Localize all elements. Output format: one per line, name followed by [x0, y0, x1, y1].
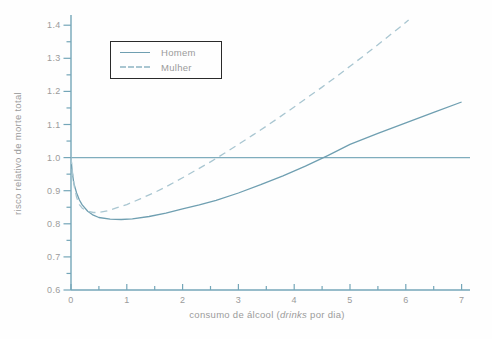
x-tick-label: 6 [403, 295, 408, 305]
chart-canvas: 0.60.70.80.91.01.11.21.31.401234567 [0, 0, 492, 339]
x-tick-label: 3 [236, 295, 241, 305]
y-tick-label: 1.0 [47, 153, 60, 163]
x-tick-label: 0 [68, 295, 73, 305]
x-axis-title-italic: drinks [280, 309, 307, 320]
legend-item-homem: Homem [111, 47, 221, 58]
legend-label-mulher: Mulher [161, 62, 192, 73]
legend-label-homem: Homem [161, 47, 196, 58]
y-tick-label: 1.3 [47, 53, 60, 63]
x-axis-title-prefix: consumo de álcool ( [189, 309, 280, 320]
y-tick-label: 0.6 [47, 285, 60, 295]
x-tick-label: 2 [180, 295, 185, 305]
y-tick-label: 1.4 [47, 20, 60, 30]
x-tick-label: 1 [124, 295, 129, 305]
x-axis-title-suffix: por dia) [307, 309, 345, 320]
x-tick-label: 4 [292, 295, 297, 305]
y-tick-label: 0.7 [47, 252, 60, 262]
y-axis-title: risco relativo de morte total [12, 79, 23, 229]
y-tick-label: 0.8 [47, 219, 60, 229]
y-tick-label: 1.2 [47, 86, 60, 96]
y-tick-label: 0.9 [47, 186, 60, 196]
series-line-homem [71, 102, 462, 220]
solid-line-swatch [120, 52, 150, 53]
legend-box: Homem Mulher [110, 41, 222, 79]
chart-figure: 0.60.70.80.91.01.11.21.31.401234567 risc… [0, 0, 492, 339]
x-axis-title: consumo de álcool (drinks por dia) [71, 309, 463, 320]
dashed-line-swatch [120, 66, 150, 68]
x-tick-label: 7 [459, 295, 464, 305]
x-tick-label: 5 [347, 295, 352, 305]
y-tick-label: 1.1 [47, 120, 60, 130]
legend-item-mulher: Mulher [111, 62, 221, 73]
